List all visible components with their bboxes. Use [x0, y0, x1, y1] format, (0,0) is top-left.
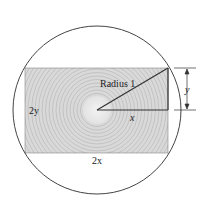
two-x-label: 2x	[92, 155, 102, 166]
x-label: x	[129, 112, 135, 123]
two-y-label: 2y	[29, 105, 39, 116]
circle-inscribed-rectangle-diagram: Radius 1 x y 2y 2x	[0, 0, 212, 211]
radius-label: Radius 1	[100, 78, 135, 89]
diagram-canvas: Radius 1 x y 2y 2x	[0, 0, 212, 211]
y-label: y	[184, 84, 190, 95]
